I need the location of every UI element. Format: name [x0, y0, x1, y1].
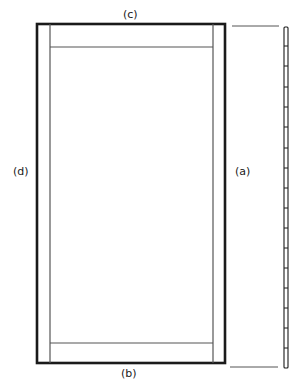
side-elevation: [284, 27, 288, 368]
label-bottom-b: (b): [121, 368, 137, 380]
label-top-c: (c): [123, 9, 138, 21]
diagram-canvas: [0, 0, 296, 387]
door-frame: [37, 24, 225, 363]
label-left-d: (d): [13, 166, 29, 178]
outer-frame: [37, 24, 225, 363]
side-strip: [284, 27, 288, 368]
dimension-lines: [230, 26, 279, 367]
label-right-a: (a): [235, 166, 250, 178]
